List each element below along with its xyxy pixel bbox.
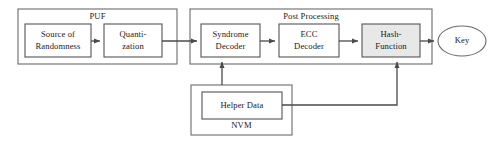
block-quantization — [104, 24, 162, 57]
terminal-key — [438, 26, 486, 56]
block-source-of-randomness — [25, 24, 91, 57]
block-hash-function — [362, 24, 420, 57]
block-diagram: PUF Post Processing NVM Source of Random… — [0, 0, 500, 143]
connector-helper-data-to-hash-function — [282, 62, 397, 105]
block-helper-data — [202, 92, 282, 119]
diagram-canvas — [0, 0, 500, 143]
block-ecc-decoder — [279, 24, 339, 57]
block-syndrome-decoder — [201, 24, 260, 57]
